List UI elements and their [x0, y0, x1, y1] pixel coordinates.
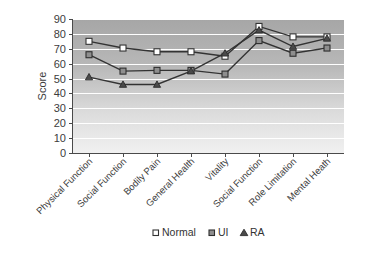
- chart-legend: NormalUIRA: [153, 226, 265, 238]
- legend-label: UI: [218, 226, 229, 238]
- y-axis-title: Score: [36, 72, 48, 101]
- marker-open-square-normal: [290, 34, 296, 40]
- legend-item-ra[interactable]: RA: [240, 226, 264, 238]
- y-tick-label: 30: [54, 102, 66, 114]
- legend-label: RA: [250, 226, 265, 238]
- y-tick-label: 10: [54, 132, 66, 144]
- plot-area-background: [72, 19, 344, 153]
- y-tick-label: 60: [54, 58, 66, 70]
- x-tick-label: Vitality: [203, 155, 231, 183]
- y-axis-ticks: 0102030405060708090: [54, 13, 72, 159]
- chart-container: 0102030405060708090 Score Physical Funct…: [0, 0, 367, 254]
- marker-filled-square-ui: [86, 52, 92, 58]
- marker-filled-square-ui: [256, 38, 262, 44]
- y-tick-label: 0: [60, 147, 66, 159]
- marker-open-square-normal: [120, 45, 126, 51]
- legend-label: Normal: [162, 226, 196, 238]
- marker-filled-square-ui: [324, 45, 330, 51]
- x-axis-ticks: [90, 153, 328, 157]
- legend-marker-filled-triangle-icon: [240, 229, 248, 235]
- marker-filled-square-ui: [154, 67, 160, 73]
- y-tick-label: 70: [54, 43, 66, 55]
- marker-filled-square-ui: [222, 71, 228, 77]
- marker-open-square-normal: [86, 38, 92, 44]
- legend-marker-filled-square-icon: [209, 230, 215, 236]
- x-axis-labels: Physical FunctionSocial FunctionBodily P…: [34, 155, 332, 216]
- score-line-chart: 0102030405060708090 Score Physical Funct…: [0, 0, 367, 254]
- legend-item-normal[interactable]: Normal: [153, 226, 196, 238]
- marker-filled-square-ui: [120, 68, 126, 74]
- marker-filled-square-ui: [290, 50, 296, 56]
- legend-marker-open-square-icon: [153, 230, 159, 236]
- marker-open-square-normal: [188, 49, 194, 55]
- y-tick-label: 40: [54, 87, 66, 99]
- y-tick-label: 80: [54, 28, 66, 40]
- x-tick-label: Physical Function: [34, 156, 94, 216]
- y-tick-label: 20: [54, 117, 66, 129]
- marker-open-square-normal: [154, 49, 160, 55]
- y-tick-label: 90: [54, 13, 66, 25]
- legend-item-ui[interactable]: UI: [209, 226, 229, 238]
- y-tick-label: 50: [54, 73, 66, 85]
